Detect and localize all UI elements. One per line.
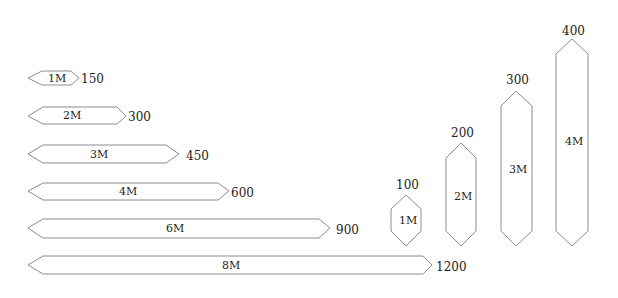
bar-label: 2M: [454, 190, 472, 203]
bar-label: 1M: [399, 214, 417, 227]
bar-label: 1M: [48, 72, 66, 85]
bar-value: 300: [128, 110, 151, 124]
vertical-bar-4m: 4M 400: [556, 24, 588, 246]
bar-value: 150: [81, 72, 104, 86]
bar-label: 3M: [509, 163, 527, 176]
bar-label: 6M: [166, 222, 184, 235]
size-diagram: 1M 150 2M 300 3M 450 4M 600 6M 900 8M 12…: [0, 0, 618, 298]
bar-value: 450: [186, 149, 209, 163]
bar-value: 400: [562, 24, 585, 38]
horizontal-bar-8m: 8M 1200: [28, 256, 467, 274]
bar-label: 2M: [63, 109, 81, 122]
bar-label: 8M: [222, 259, 240, 272]
bar-label: 4M: [119, 185, 137, 198]
bar-value: 1200: [436, 260, 467, 274]
bar-value: 100: [396, 178, 419, 192]
horizontal-bar-2m: 2M 300: [28, 107, 151, 124]
horizontal-bar-4m: 4M 600: [28, 183, 254, 200]
horizontal-bar-3m: 3M 450: [28, 145, 209, 163]
bar-value: 600: [231, 186, 254, 200]
vertical-bar-3m: 3M 300: [501, 73, 532, 246]
vertical-bar-2m: 2M 200: [446, 126, 476, 246]
horizontal-bar-6m: 6M 900: [28, 219, 359, 238]
bar-value: 200: [451, 126, 474, 140]
bar-label: 3M: [90, 148, 108, 161]
horizontal-bar-1m: 1M 150: [28, 71, 104, 86]
bar-value: 300: [506, 73, 529, 87]
bar-value: 900: [336, 223, 359, 237]
vertical-bar-1m: 1M 100: [391, 178, 421, 246]
bar-label: 4M: [565, 135, 583, 148]
